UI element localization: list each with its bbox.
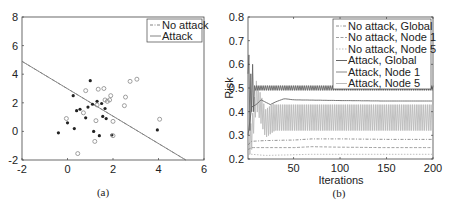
- data-point-filled: [57, 131, 60, 134]
- legend-label-no-attack-node5: No attack, Node 5: [348, 43, 436, 55]
- data-point-filled: [75, 109, 78, 112]
- y-tick-label: 0.6: [229, 58, 244, 70]
- data-point-filled: [78, 108, 81, 111]
- data-point-filled: [156, 128, 159, 131]
- panel-b: 501001502000.20.30.40.50.60.70.8 Risk It…: [223, 11, 442, 200]
- legend-label-attack-node5: Attack, Node 5: [348, 77, 420, 89]
- panel-a-caption: (a): [97, 186, 110, 199]
- y-tick-label: 0.7: [229, 35, 244, 47]
- data-point-filled: [105, 117, 108, 120]
- data-point-filled: [84, 116, 87, 119]
- panel-a: -20246-202468 No attack Attack (a): [8, 11, 209, 199]
- data-point-filled: [95, 100, 98, 103]
- data-point-filled: [92, 130, 95, 133]
- data-point-filled: [98, 134, 101, 137]
- panel-b-legend: No attack, Global No attack, Node 1 No a…: [333, 19, 436, 89]
- x-tick-label: 6: [201, 163, 207, 175]
- y-tick-label: 8: [12, 11, 18, 23]
- data-point-filled: [89, 79, 92, 82]
- data-point-filled: [101, 115, 104, 118]
- panel-b-ylabel: Risk: [223, 77, 235, 99]
- data-point-filled: [73, 127, 76, 130]
- data-point-filled: [100, 102, 103, 105]
- y-tick-label: 0.2: [229, 153, 244, 165]
- x-tick-label: 4: [155, 163, 161, 175]
- x-tick-label: -2: [17, 163, 27, 175]
- data-point-filled: [66, 121, 69, 124]
- legend-label-no-attack-node1: No attack, Node 1: [348, 31, 436, 43]
- data-point-filled: [103, 107, 106, 110]
- y-tick-label: 0.8: [229, 11, 244, 23]
- x-tick-label: 0: [64, 163, 70, 175]
- data-point-filled: [91, 103, 94, 106]
- y-tick-label: 2: [12, 97, 18, 109]
- data-point-filled: [72, 94, 75, 97]
- y-tick-label: 6: [12, 40, 18, 52]
- legend-label-attack-node1: Attack, Node 1: [348, 66, 420, 78]
- figure: -20246-202468 No attack Attack (a) 50100…: [0, 0, 454, 210]
- legend-label-attack-global: Attack, Global: [348, 54, 416, 66]
- y-tick-label: -2: [8, 154, 18, 166]
- x-tick-label: 2: [110, 163, 116, 175]
- x-tick-label: 100: [331, 162, 349, 174]
- x-tick-label: 200: [424, 162, 442, 174]
- panel-b-xlabel: Iterations: [318, 174, 364, 186]
- y-tick-label: 0.3: [229, 129, 244, 141]
- y-tick-label: 4: [12, 68, 18, 80]
- data-point-filled: [86, 105, 89, 108]
- legend-label-attack: Attack: [162, 30, 193, 42]
- x-tick-label: 150: [377, 162, 395, 174]
- x-tick-label: 50: [287, 162, 299, 174]
- y-tick-label: 0.4: [229, 106, 244, 118]
- panel-b-caption: (b): [333, 187, 346, 200]
- panel-a-legend: No attack Attack: [147, 19, 209, 43]
- y-tick-label: 0: [12, 125, 18, 137]
- legend-label-no-attack-global: No attack, Global: [348, 20, 432, 32]
